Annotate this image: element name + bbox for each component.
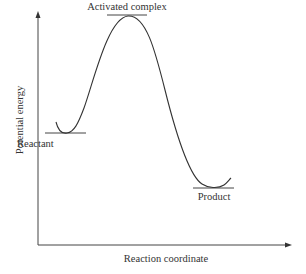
activated-complex-label: Activated complex — [87, 1, 167, 12]
product-label: Product — [198, 191, 231, 202]
energy-diagram: Activated complex Reactant Product React… — [0, 0, 306, 274]
y-axis-label: Potential energy — [14, 85, 25, 154]
x-axis-arrow-icon — [285, 243, 292, 248]
energy-curve — [56, 16, 231, 188]
x-axis-label: Reaction coordinate — [124, 253, 209, 264]
y-axis-arrow-icon — [36, 11, 41, 18]
